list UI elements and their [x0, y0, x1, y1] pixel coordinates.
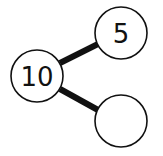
part-node-bottom[interactable] [95, 95, 147, 147]
whole-value: 10 [20, 62, 53, 92]
connector-bottom [60, 89, 98, 110]
part-node-top: 5 [95, 7, 147, 59]
whole-node: 10 [11, 50, 63, 102]
part-top-value: 5 [113, 19, 130, 49]
number-bond-diagram: 10 5 [0, 0, 163, 156]
connector-top [60, 44, 98, 63]
